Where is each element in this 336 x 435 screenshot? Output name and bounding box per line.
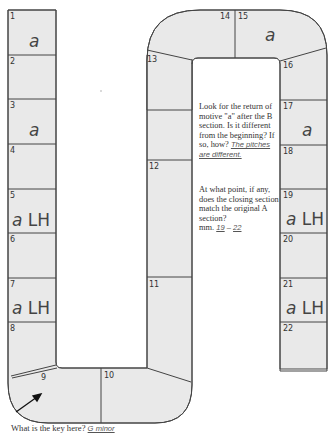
question-key: What is the key here? G minor [11,423,115,433]
motive-label: a [265,27,275,44]
cell-number: 8 [10,325,15,333]
cell-number: 7 [10,281,15,289]
cell-number: 22 [283,325,293,333]
motive-label: a LH [286,211,324,228]
motive-label: a LH [12,212,50,229]
cell-number: 15 [238,13,248,21]
cell-number: 20 [283,236,293,244]
motive-label: a [302,122,312,139]
answer-closing-end: 22 [233,223,241,232]
question-closing-section: At what point, if any, does the closing … [199,185,279,233]
answer-closing-start: 19 [216,223,224,232]
motive-label: a [29,122,39,139]
cell-number: 12 [149,163,159,171]
question-return-motive: Look for the return of motive "a" after … [199,102,279,160]
motive-label: a LH [12,300,50,317]
motive-label: a [29,33,39,50]
cell-number: 10 [104,372,114,380]
cell-number: 19 [283,192,293,200]
cell-number: 5 [10,192,15,200]
cell-number: 17 [283,103,293,111]
motive-label: a LH [286,300,324,317]
cell-number: 11 [149,281,159,289]
cell-number: 16 [283,62,293,70]
cell-number: 18 [283,148,293,156]
cell-number: 14 [220,13,230,21]
cell-number: 4 [10,147,15,155]
cell-number: 1 [10,13,15,21]
cell-number: 21 [283,281,293,289]
cell-number: 13 [147,56,157,64]
cell-number: 3 [10,102,15,110]
cell-number: 2 [10,58,15,66]
answer-key: G minor [88,424,115,433]
cell-number: 6 [10,236,15,244]
cell-number: 9 [41,374,46,382]
